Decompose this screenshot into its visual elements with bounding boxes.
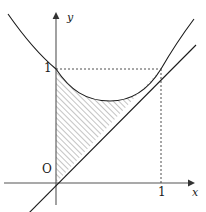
origin-label: O	[42, 163, 52, 175]
y-tick-label-1: 1	[44, 62, 52, 74]
y-axis-label: y	[67, 12, 73, 23]
shaded-region	[56, 69, 161, 183]
figure-canvas	[0, 0, 206, 212]
x-tick-label-1: 1	[158, 186, 166, 198]
x-axis-label: x	[192, 187, 198, 198]
y-axis-arrow-icon	[53, 12, 60, 19]
parabola-curve	[8, 14, 194, 101]
figure-container: y x 1 1 O	[0, 0, 206, 212]
